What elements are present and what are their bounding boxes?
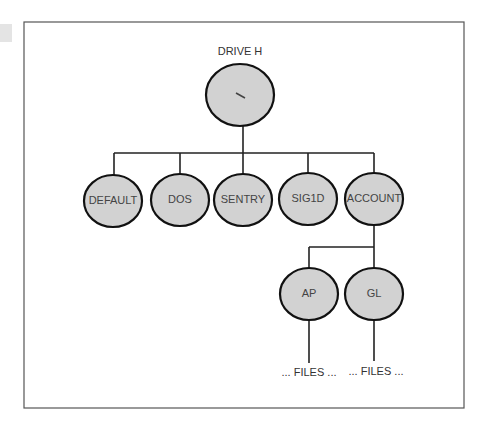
- node-label: SIG1D: [291, 192, 324, 204]
- tree-node-default[interactable]: DEFAULT: [84, 175, 142, 227]
- directory-tree-diagram: DRIVE H DEFAULT DOS SENTRY SIG1D A: [0, 0, 487, 424]
- gl-files-label: ... FILES ...: [348, 365, 403, 377]
- tree-node-root[interactable]: [206, 64, 274, 126]
- tree-node-account[interactable]: ACCOUNT: [345, 173, 403, 225]
- node-label: DEFAULT: [89, 194, 138, 206]
- node-label: AP: [302, 287, 317, 299]
- tree-node-sentry[interactable]: SENTRY: [214, 174, 272, 226]
- node-label: ACCOUNT: [347, 192, 402, 204]
- tree-node-sig1d[interactable]: SIG1D: [279, 173, 337, 225]
- drive-caption: DRIVE H: [218, 45, 263, 57]
- tree-node-gl[interactable]: GL: [345, 268, 403, 320]
- tree-node-ap[interactable]: AP: [280, 268, 338, 320]
- tree-node-dos[interactable]: DOS: [151, 174, 209, 226]
- ap-files-label: ... FILES ...: [281, 366, 336, 378]
- node-label: DOS: [168, 193, 192, 205]
- node-label: SENTRY: [221, 193, 266, 205]
- node-label: GL: [367, 287, 382, 299]
